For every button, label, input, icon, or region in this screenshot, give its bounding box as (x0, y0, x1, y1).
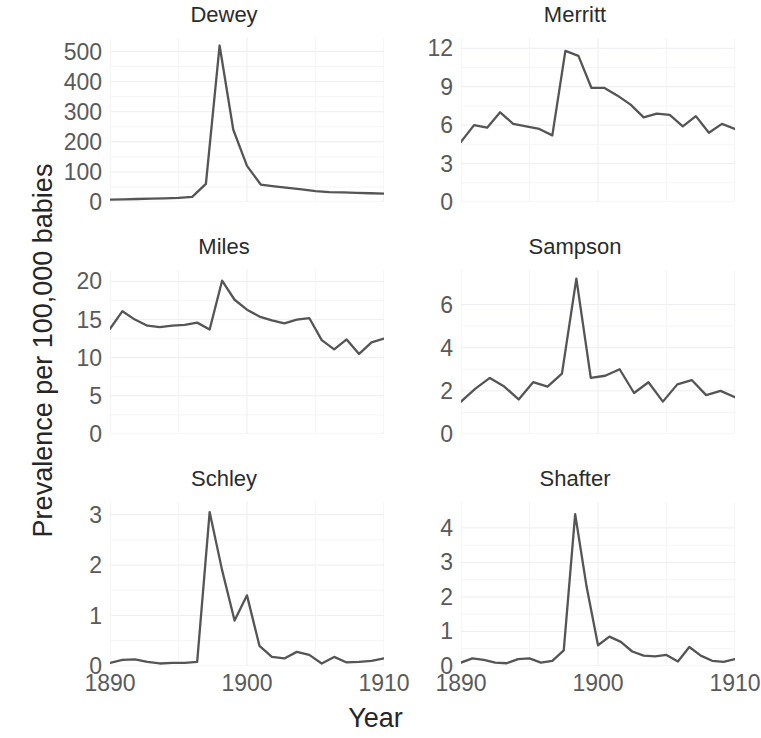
y-tick-label: 2 (89, 552, 102, 579)
series-svg-miles (110, 270, 384, 434)
facet-panel-merritt: Merritt036912 (409, 2, 741, 234)
y-axis-merritt: 036912 (409, 38, 453, 202)
y-tick-label: 500 (64, 38, 102, 65)
y-tick-label: 300 (64, 98, 102, 125)
series-svg-shafter (461, 502, 735, 666)
y-tick-label: 0 (89, 421, 102, 448)
y-tick-label: 4 (440, 334, 453, 361)
x-tick-label: 1890 (435, 670, 486, 697)
plot-area-shafter (461, 502, 735, 666)
y-tick-label: 20 (76, 268, 102, 295)
y-tick-label: 100 (64, 158, 102, 185)
y-tick-label: 3 (440, 549, 453, 576)
plot-area-merritt (461, 38, 735, 202)
y-tick-label: 0 (89, 189, 102, 216)
panel-title-merritt: Merritt (409, 2, 741, 28)
y-axis-sampson: 0246 (409, 270, 453, 434)
y-tick-label: 400 (64, 68, 102, 95)
plot-area-schley (110, 502, 384, 666)
plot-area-miles (110, 270, 384, 434)
plot-area-sampson (461, 270, 735, 434)
facet-panel-shafter: Shafter01234189019001910 (409, 466, 741, 698)
y-axis-schley: 0123 (58, 502, 102, 666)
y-tick-label: 6 (440, 291, 453, 318)
series-svg-sampson (461, 270, 735, 434)
y-tick-label: 12 (427, 35, 453, 62)
y-tick-label: 6 (440, 112, 453, 139)
x-tick-label: 1900 (221, 670, 272, 697)
y-axis-dewey: 0100200300400500 (58, 38, 102, 202)
panel-title-shafter: Shafter (409, 466, 741, 492)
facet-panel-dewey: Dewey0100200300400500 (58, 2, 390, 234)
facet-panel-schley: Schley0123189019001910 (58, 466, 390, 698)
y-tick-label: 4 (440, 514, 453, 541)
y-tick-label: 200 (64, 128, 102, 155)
y-tick-label: 9 (440, 73, 453, 100)
x-tick-label: 1900 (572, 670, 623, 697)
series-svg-schley (110, 502, 384, 666)
y-tick-label: 0 (440, 189, 453, 216)
panel-title-miles: Miles (58, 234, 390, 260)
facet-panel-sampson: Sampson0246 (409, 234, 741, 466)
y-tick-label: 10 (76, 344, 102, 371)
panel-title-sampson: Sampson (409, 234, 741, 260)
y-tick-label: 2 (440, 583, 453, 610)
facet-panel-miles: Miles05101520 (58, 234, 390, 466)
y-tick-label: 15 (76, 306, 102, 333)
plot-area-dewey (110, 38, 384, 202)
y-tick-label: 1 (440, 618, 453, 645)
y-axis-title: Prevalence per 100,000 babies (28, 56, 59, 646)
y-tick-label: 5 (89, 382, 102, 409)
x-tick-label: 1890 (84, 670, 135, 697)
panel-title-dewey: Dewey (58, 2, 390, 28)
y-axis-shafter: 01234 (409, 502, 453, 666)
x-axis-title: Year (0, 703, 751, 734)
panel-title-schley: Schley (58, 466, 390, 492)
y-tick-label: 0 (440, 421, 453, 448)
series-svg-dewey (110, 38, 384, 202)
y-tick-label: 2 (440, 377, 453, 404)
y-axis-miles: 05101520 (58, 270, 102, 434)
x-tick-label: 1910 (709, 670, 760, 697)
y-tick-label: 3 (440, 150, 453, 177)
y-tick-label: 3 (89, 501, 102, 528)
y-tick-label: 1 (89, 602, 102, 629)
x-tick-label: 1910 (358, 670, 409, 697)
series-svg-merritt (461, 38, 735, 202)
